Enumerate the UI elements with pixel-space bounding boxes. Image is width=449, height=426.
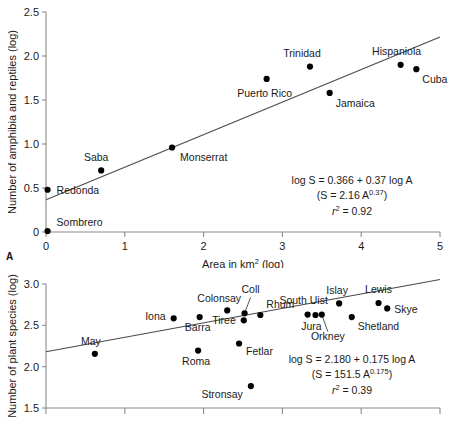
data-point: Monserrat <box>169 144 227 162</box>
data-point: Barra <box>185 314 211 333</box>
y-axis-title-b: Number of plant species (log) <box>6 274 18 418</box>
data-point-label: Puerto Rico <box>237 87 292 99</box>
data-point: Cuba <box>413 66 447 85</box>
data-point: Roma <box>182 347 210 366</box>
data-point-marker <box>98 167 104 173</box>
data-point-label: Redonda <box>57 184 100 196</box>
data-point: Jamaica <box>327 90 375 109</box>
equation-line-1: log S = 0.366 + 0.37 log A <box>292 174 413 186</box>
x-tick-label-a: 5 <box>437 240 443 252</box>
y-axis-b: 1.52.02.53.0 <box>24 278 46 414</box>
equation-line-2: (S = 151.5 A0.175) <box>312 367 392 380</box>
chart-panel-a: 00.51.01.52.02.5012345Number of amphibia… <box>0 0 449 268</box>
y-tick-label-a: 1.0 <box>24 138 39 150</box>
x-tick-label-a: 2 <box>201 240 207 252</box>
equation-block-a: log S = 0.366 + 0.37 log A(S = 2.16 A0.3… <box>292 174 413 217</box>
data-point-marker <box>307 63 313 69</box>
r-squared-value: r2 = 0.92 <box>332 204 372 217</box>
data-point-marker <box>327 90 333 96</box>
data-point: Stronsay <box>201 383 254 400</box>
x-axis-b <box>46 408 440 414</box>
data-point-marker <box>44 187 50 193</box>
x-axis-a: 012345 <box>43 232 443 252</box>
x-tick-label-a: 3 <box>279 240 285 252</box>
data-point-marker <box>413 66 419 72</box>
equation-block-b: log S = 2.180 + 0.175 log A(S = 151.5 A0… <box>289 353 416 396</box>
data-point: Hispaniola <box>372 45 421 68</box>
species-area-figure: 00.51.01.52.02.5012345Number of amphibia… <box>0 0 449 426</box>
data-point-label: May <box>81 335 102 347</box>
data-point-label: Saba <box>84 151 109 163</box>
data-point-marker <box>305 311 311 317</box>
data-point-label: South Uist <box>279 294 328 306</box>
data-point: Coll <box>241 283 259 316</box>
data-point-marker <box>241 310 247 316</box>
data-point-label: Colonsay <box>197 292 242 304</box>
x-tick-label-a: 1 <box>122 240 128 252</box>
data-point-label: Sombrero <box>57 216 103 228</box>
y-tick-label-b: 2.5 <box>24 319 39 331</box>
data-point-marker <box>375 300 381 306</box>
data-point-label: Roma <box>182 355 210 367</box>
data-point-label: Cuba <box>422 73 447 85</box>
data-point-label: Shetland <box>358 320 400 332</box>
panel-label-a: A <box>6 251 13 262</box>
data-point-marker <box>241 317 247 323</box>
data-point-marker <box>195 347 201 353</box>
data-point: Redonda <box>44 184 99 196</box>
data-point: Islay <box>326 284 348 306</box>
data-point-label: Islay <box>326 284 348 296</box>
y-tick-label-a: 0 <box>33 226 39 238</box>
data-point-label: Hispaniola <box>372 45 421 57</box>
x-tick-label-a: 0 <box>43 240 49 252</box>
data-point-marker <box>312 312 318 318</box>
equation-line-2: (S = 2.16 A0.37) <box>317 188 387 201</box>
y-axis-a: 00.51.01.52.02.5 <box>24 6 46 238</box>
data-point-marker <box>319 311 325 317</box>
data-point: Lewis <box>365 283 392 306</box>
data-point-marker <box>264 76 270 82</box>
data-point-marker <box>171 315 177 321</box>
data-point: Skye <box>384 303 418 315</box>
equation-line-1: log S = 2.180 + 0.175 log A <box>289 353 416 365</box>
data-point-label: Fetlar <box>246 345 273 357</box>
data-point: Saba <box>84 151 109 173</box>
data-point-marker <box>224 307 230 313</box>
y-tick-label-a: 2.0 <box>24 50 39 62</box>
y-tick-label-a: 0.5 <box>24 182 39 194</box>
data-point-label: Skye <box>394 303 418 315</box>
data-point-label: Barra <box>185 321 211 333</box>
r-squared-value: r2 = 0.39 <box>332 383 372 396</box>
data-point-label: Trinidad <box>283 47 321 59</box>
data-point-label: Stronsay <box>201 388 243 400</box>
data-point-label: Jamaica <box>336 97 375 109</box>
data-point: Iona <box>145 310 177 322</box>
data-point-marker <box>257 312 263 318</box>
data-point-label: Monserrat <box>180 151 227 163</box>
data-point-marker <box>349 314 355 320</box>
data-point: Fetlar <box>236 340 273 356</box>
y-axis-title-a: Number of amphibia and reptiles (log) <box>6 30 18 214</box>
data-point-marker <box>248 383 254 389</box>
data-point-marker <box>384 305 390 311</box>
data-point-label: Iona <box>145 310 166 322</box>
data-point-label: Lewis <box>365 283 392 295</box>
data-point-label: Tiree <box>212 314 236 326</box>
y-tick-label-a: 1.5 <box>24 94 39 106</box>
data-point-marker <box>398 62 404 68</box>
data-point: Colonsay <box>197 292 242 313</box>
data-point-marker <box>44 228 50 234</box>
x-axis-title-a: Area in km2 (log) <box>202 257 284 268</box>
y-tick-label-b: 1.5 <box>24 402 39 414</box>
data-point: May <box>81 335 102 357</box>
data-point-marker <box>197 314 203 320</box>
data-point-marker <box>169 144 175 150</box>
data-point-marker <box>236 340 242 346</box>
y-tick-label-b: 3.0 <box>24 278 39 290</box>
y-tick-label-a: 2.5 <box>24 6 39 18</box>
data-point: Shetland <box>349 314 400 332</box>
y-tick-label-b: 2.0 <box>24 361 39 373</box>
data-point-marker <box>92 351 98 357</box>
data-point: Puerto Rico <box>237 76 292 99</box>
x-tick-label-a: 4 <box>358 240 364 252</box>
